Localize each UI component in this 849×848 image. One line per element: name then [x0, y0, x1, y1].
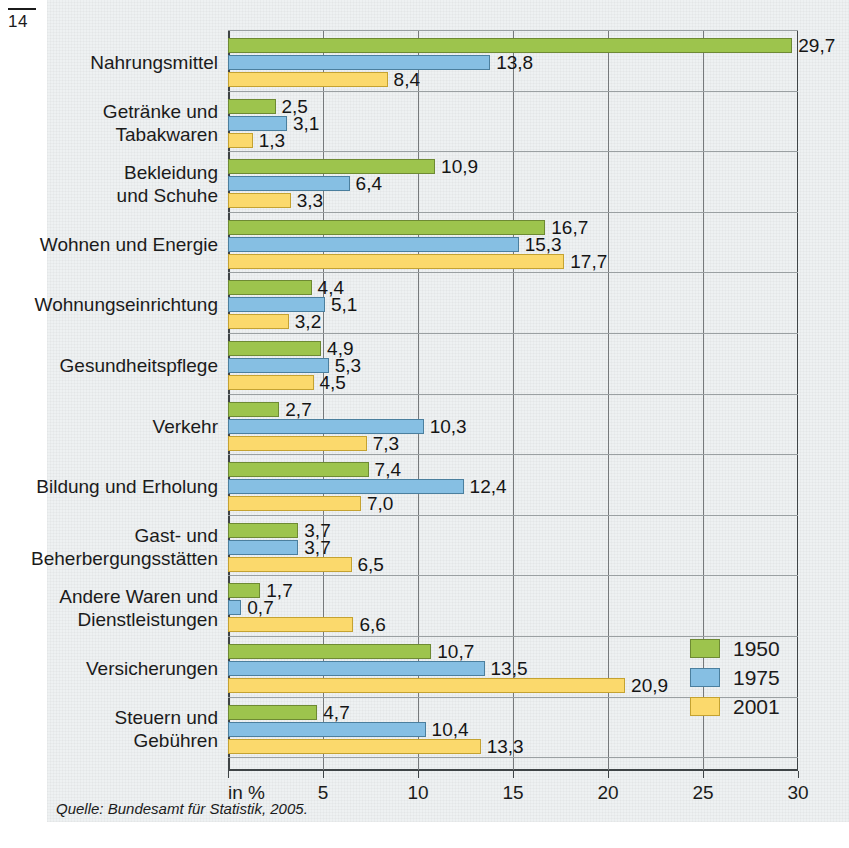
category-label-line: Gast- und — [3, 524, 218, 547]
bar-value-2001-3: 3,3 — [297, 192, 323, 210]
bar-2001-3 — [228, 193, 291, 208]
group-separator — [228, 454, 798, 455]
tick-mark-10 — [418, 771, 419, 778]
bar-value-1975-4: 15,3 — [525, 236, 562, 254]
bar-2001-9 — [228, 557, 352, 572]
bar-2001-10 — [228, 617, 353, 632]
tick-mark-25 — [703, 771, 704, 778]
legend-item-1975[interactable]: 1975 — [690, 663, 800, 692]
legend-label-2001: 2001 — [733, 695, 780, 719]
bar-1975-8 — [228, 479, 464, 494]
bar-value-1950-8: 7,4 — [375, 461, 401, 479]
bar-value-2001-12: 13,3 — [487, 738, 524, 756]
category-label-line: Verkehr — [3, 415, 218, 438]
tick-mark-0 — [228, 771, 229, 778]
group-separator — [228, 151, 798, 152]
category-label-6: Gesundheitspflege — [3, 354, 218, 377]
bar-value-2001-1: 8,4 — [394, 71, 420, 89]
category-label-7: Verkehr — [3, 415, 218, 438]
bar-1950-5 — [228, 280, 312, 295]
page-number-value: 14 — [8, 12, 48, 32]
legend-swatch-2001 — [690, 697, 720, 716]
bar-value-2001-7: 7,3 — [373, 435, 399, 453]
legend-label-1950: 1950 — [733, 637, 780, 661]
category-label-10: Andere Waren undDienstleistungen — [3, 585, 218, 631]
bar-value-1975-12: 10,4 — [432, 721, 469, 739]
bar-1975-4 — [228, 237, 519, 252]
category-label-line: Bildung und Erholung — [3, 475, 218, 498]
bar-1950-12 — [228, 705, 317, 720]
bar-value-2001-6: 4,5 — [320, 374, 346, 392]
category-label-line: Gesundheitspflege — [3, 354, 218, 377]
bar-value-2001-4: 17,7 — [570, 253, 607, 271]
bar-1975-3 — [228, 176, 350, 191]
bar-1950-1 — [228, 38, 792, 53]
legend-item-1950[interactable]: 1950 — [690, 634, 800, 663]
category-label-4: Wohnen und Energie — [3, 233, 218, 256]
category-label-line: Wohnungseinrichtung — [3, 293, 218, 316]
group-separator — [228, 272, 798, 273]
bar-2001-4 — [228, 254, 564, 269]
group-separator — [228, 757, 798, 758]
tick-mark-20 — [608, 771, 609, 778]
bar-value-1975-3: 6,4 — [356, 175, 382, 193]
category-label-9: Gast- undBeherbergungsstätten — [3, 524, 218, 570]
group-separator — [228, 515, 798, 516]
category-label-line: Gebühren — [3, 729, 218, 752]
bar-value-1950-3: 10,9 — [441, 158, 478, 176]
bar-2001-11 — [228, 678, 625, 693]
x-tick-label-5: 5 — [318, 782, 329, 804]
x-tick-label-25: 25 — [692, 782, 713, 804]
bar-value-2001-10: 6,6 — [359, 616, 385, 634]
legend-label-1975: 1975 — [733, 666, 780, 690]
bar-1975-12 — [228, 722, 426, 737]
category-label-line: Versicherungen — [3, 657, 218, 680]
bar-value-2001-8: 7,0 — [367, 495, 393, 513]
x-tick-label-20: 20 — [597, 782, 618, 804]
legend-swatch-1975 — [690, 668, 720, 687]
bar-1975-10 — [228, 600, 241, 615]
bar-1975-9 — [228, 540, 298, 555]
bar-value-1975-7: 10,3 — [430, 418, 467, 436]
tick-mark-30 — [798, 771, 799, 778]
group-separator — [228, 394, 798, 395]
chart-page: 14 NahrungsmittelGetränke undTabakwarenB… — [0, 0, 849, 848]
bar-1975-1 — [228, 55, 490, 70]
bar-1950-3 — [228, 159, 435, 174]
bar-1950-8 — [228, 462, 369, 477]
bar-1975-2 — [228, 116, 287, 131]
bar-value-2001-9: 6,5 — [358, 556, 384, 574]
bar-1975-11 — [228, 661, 485, 676]
category-label-line: Steuern und — [3, 706, 218, 729]
bar-value-1950-1: 29,7 — [798, 37, 835, 55]
gridline-20 — [608, 30, 609, 770]
category-label-line: Bekleidung — [3, 161, 218, 184]
category-label-8: Bildung und Erholung — [3, 475, 218, 498]
group-separator — [228, 91, 798, 92]
bar-1950-7 — [228, 402, 279, 417]
category-label-3: Bekleidungund Schuhe — [3, 161, 218, 207]
category-label-12: Steuern undGebühren — [3, 706, 218, 752]
category-label-line: Andere Waren und — [3, 585, 218, 608]
category-label-line: Wohnen und Energie — [3, 233, 218, 256]
group-separator — [228, 575, 798, 576]
bar-1950-9 — [228, 523, 298, 538]
bar-2001-12 — [228, 739, 481, 754]
bar-1950-10 — [228, 583, 260, 598]
page-number: 14 — [8, 8, 48, 32]
category-label-line: Getränke und — [3, 100, 218, 123]
legend-item-2001[interactable]: 2001 — [690, 692, 800, 721]
bar-1950-4 — [228, 220, 545, 235]
category-label-column: NahrungsmittelGetränke undTabakwarenBekl… — [0, 30, 218, 770]
legend-swatch-1950 — [690, 639, 720, 658]
bar-value-1950-12: 4,7 — [323, 704, 349, 722]
gridline-10 — [418, 30, 419, 770]
category-label-5: Wohnungseinrichtung — [3, 293, 218, 316]
bar-1950-11 — [228, 644, 431, 659]
bar-value-1975-1: 13,8 — [496, 54, 533, 72]
category-label-1: Nahrungsmittel — [3, 51, 218, 74]
group-separator — [228, 30, 798, 31]
bar-2001-1 — [228, 72, 388, 87]
source-note: Quelle: Bundesamt für Statistik, 2005. — [56, 800, 308, 817]
bar-value-1975-5: 5,1 — [331, 296, 357, 314]
